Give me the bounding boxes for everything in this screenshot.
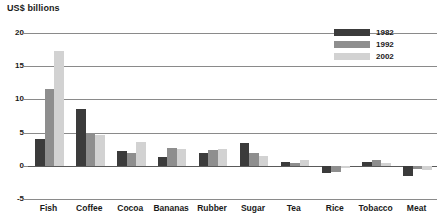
- bar-rubber-2002: [218, 149, 228, 166]
- bar-cocoa-2002: [136, 142, 146, 166]
- bar-meat-1982: [403, 166, 413, 176]
- bar-rice-1992: [331, 166, 341, 172]
- legend-label-1992: 1992: [376, 40, 394, 49]
- legend-item-1982: 1982: [334, 29, 412, 37]
- x-axis-labels: FishCoffeeCocoaBananasRubberSugarTeaRice…: [28, 203, 437, 221]
- bar-fish-1982: [35, 139, 45, 166]
- bar-group-rubber: [199, 33, 228, 199]
- y-axis: 20151050-5: [0, 33, 24, 199]
- bar-tea-2002: [300, 160, 310, 165]
- bar-bananas-1992: [167, 148, 177, 166]
- y-tick-mark-0: [23, 166, 28, 167]
- bar-meat-1992: [413, 166, 423, 169]
- bar-group-coffee: [76, 33, 105, 199]
- bar-meat-2002: [422, 166, 432, 170]
- bar-group-bananas: [158, 33, 187, 199]
- x-axis-label-bananas: Bananas: [151, 203, 192, 213]
- bar-group-tea: [281, 33, 310, 199]
- bar-rice-2002: [341, 166, 351, 168]
- bar-bananas-2002: [177, 149, 187, 166]
- y-tick-label--5: -5: [2, 194, 24, 203]
- bar-chart: US$ billions 20151050-5 FishCoffeeCocoaB…: [0, 0, 443, 224]
- bar-cocoa-1982: [117, 151, 127, 166]
- bar-cocoa-1992: [127, 153, 137, 166]
- legend-swatch-1992: [334, 41, 370, 48]
- y-tick-mark-20: [23, 33, 28, 34]
- y-tick-label-0: 0: [2, 161, 24, 170]
- y-tick-mark-5: [23, 133, 28, 134]
- bar-rubber-1992: [208, 150, 218, 166]
- legend-swatch-1982: [334, 29, 370, 36]
- bar-tobacco-1992: [372, 160, 382, 166]
- bar-tea-1992: [290, 163, 300, 166]
- y-tick-label-15: 15: [2, 61, 24, 70]
- chart-title: US$ billions: [7, 3, 60, 13]
- bar-rubber-1982: [199, 153, 209, 166]
- bar-rice-1982: [322, 166, 332, 173]
- x-axis-label-fish: Fish: [28, 203, 69, 213]
- bar-group-cocoa: [117, 33, 146, 199]
- legend-label-2002: 2002: [376, 52, 394, 61]
- bar-tobacco-2002: [381, 163, 391, 166]
- y-tick-label-20: 20: [2, 28, 24, 37]
- bar-sugar-1992: [249, 153, 259, 166]
- legend-item-1992: 1992: [334, 41, 412, 49]
- x-axis-label-coffee: Coffee: [69, 203, 110, 213]
- legend-item-2002: 2002: [334, 53, 412, 61]
- x-axis-label-rice: Rice: [314, 203, 355, 213]
- bar-tea-1982: [281, 162, 291, 166]
- x-axis-label-tea: Tea: [273, 203, 314, 213]
- bar-coffee-1992: [86, 133, 96, 166]
- bar-fish-2002: [54, 51, 64, 166]
- y-tick-mark-10: [23, 99, 28, 100]
- y-tick-label-10: 10: [2, 94, 24, 103]
- gridline--5: [28, 199, 437, 200]
- x-axis-label-tobacco: Tobacco: [355, 203, 396, 213]
- x-axis-label-sugar: Sugar: [233, 203, 274, 213]
- x-axis-label-rubber: Rubber: [192, 203, 233, 213]
- bar-sugar-1982: [240, 143, 250, 166]
- x-axis-label-meat: Meat: [396, 203, 437, 213]
- y-tick-mark--5: [23, 199, 28, 200]
- bar-coffee-1982: [76, 109, 86, 165]
- bar-tobacco-1982: [362, 162, 372, 165]
- legend-swatch-2002: [334, 53, 370, 60]
- y-tick-label-5: 5: [2, 128, 24, 137]
- bar-sugar-2002: [259, 156, 269, 166]
- y-tick-mark-15: [23, 66, 28, 67]
- bar-bananas-1982: [158, 157, 168, 166]
- chart-legend: 198219922002: [334, 29, 412, 65]
- bar-group-fish: [35, 33, 64, 199]
- bar-coffee-2002: [95, 135, 105, 166]
- bar-fish-1992: [45, 89, 55, 165]
- x-axis-label-cocoa: Cocoa: [110, 203, 151, 213]
- bar-group-sugar: [240, 33, 269, 199]
- legend-label-1982: 1982: [376, 28, 394, 37]
